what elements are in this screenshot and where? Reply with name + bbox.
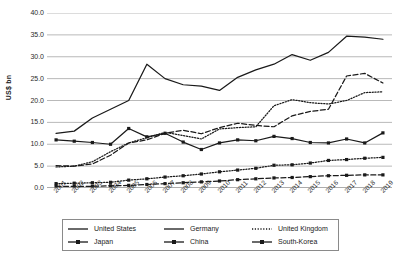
legend-swatch-icon <box>163 224 185 234</box>
legend-swatch-icon <box>251 224 273 234</box>
legend-swatch-icon <box>67 224 89 234</box>
legend-item-germany[interactable]: Germany <box>163 224 251 234</box>
legend-item-japan[interactable]: Japan <box>67 237 163 247</box>
x-axis-tick-labels: 2001200220032004200520062007200820092010… <box>47 189 392 215</box>
legend-swatch-icon <box>163 237 185 247</box>
chart-legend: United StatesGermanyUnited Kingdom Japan… <box>62 219 339 251</box>
y-axis-tick: 0.0 <box>0 184 44 191</box>
legend-label: United Kingdom <box>278 225 328 232</box>
y-axis-tick: 5.0 <box>0 162 44 169</box>
legend-item-china[interactable]: China <box>163 237 251 247</box>
plot-svg <box>47 13 392 188</box>
legend-swatch-icon <box>251 237 273 247</box>
legend-item-south-korea[interactable]: South-Korea <box>251 237 317 247</box>
legend-label: China <box>190 238 208 245</box>
y-axis-tick: 10.0 <box>0 140 44 147</box>
y-axis-tick: 20.0 <box>0 97 44 104</box>
legend-label: South-Korea <box>278 238 317 245</box>
legend-item-united-states[interactable]: United States <box>67 224 163 234</box>
plot-area <box>47 13 392 188</box>
legend-swatch-icon <box>67 237 89 247</box>
legend-label: United States <box>94 225 136 232</box>
legend-row: JapanChinaSouth-Korea <box>67 235 334 248</box>
legend-row: United StatesGermanyUnited Kingdom <box>67 222 334 235</box>
series-united-states <box>56 36 383 133</box>
y-axis-tick: 25.0 <box>0 75 44 82</box>
y-axis-tick: 35.0 <box>0 31 44 38</box>
series-united-kingdom <box>56 92 383 167</box>
legend-label: Germany <box>190 225 219 232</box>
y-axis-tick-labels: 40.035.030.025.020.015.010.05.00.0 <box>0 0 44 200</box>
gridlines <box>47 13 392 188</box>
y-axis-tick: 15.0 <box>0 118 44 125</box>
series-germany <box>56 73 383 166</box>
series-japan <box>54 127 384 151</box>
y-axis-tick: 40.0 <box>0 9 44 16</box>
legend-item-united-kingdom[interactable]: United Kingdom <box>251 224 328 234</box>
legend-label: Japan <box>94 238 113 245</box>
y-axis-tick: 30.0 <box>0 53 44 60</box>
line-chart: US$ bn 40.035.030.025.020.015.010.05.00.… <box>0 0 399 257</box>
